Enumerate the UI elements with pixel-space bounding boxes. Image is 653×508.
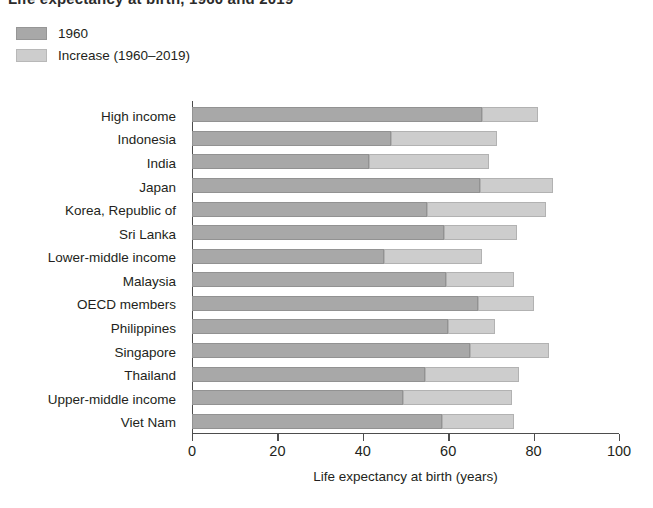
bar-segment-increase bbox=[384, 249, 482, 264]
bar-row bbox=[192, 107, 619, 122]
bar-row bbox=[192, 154, 619, 169]
x-tick-label-20: 20 bbox=[269, 443, 285, 459]
x-tick-label-100: 100 bbox=[607, 443, 631, 459]
x-tick-0 bbox=[192, 434, 193, 441]
bar-row bbox=[192, 414, 619, 429]
bar-row bbox=[192, 202, 619, 217]
bar-row bbox=[192, 296, 619, 311]
bar-segment-increase bbox=[448, 319, 495, 334]
bar-segment-base-1960 bbox=[192, 131, 391, 146]
bar-segment-base-1960 bbox=[192, 225, 444, 240]
x-tick-label-0: 0 bbox=[188, 443, 196, 459]
x-axis-title: Life expectancy at birth (years) bbox=[192, 469, 619, 484]
bar-segment-base-1960 bbox=[192, 272, 446, 287]
bar-segment-increase bbox=[478, 296, 534, 311]
bar-segment-base-1960 bbox=[192, 319, 448, 334]
bar-row bbox=[192, 225, 619, 240]
x-axis-line bbox=[192, 433, 619, 434]
y-axis-label-viet-nam: Viet Nam bbox=[121, 416, 176, 430]
bar-series-group bbox=[192, 103, 619, 433]
x-tick-label-40: 40 bbox=[355, 443, 371, 459]
bar-segment-base-1960 bbox=[192, 202, 427, 217]
bar-row bbox=[192, 390, 619, 405]
bar-row bbox=[192, 249, 619, 264]
y-axis-label-malaysia: Malaysia bbox=[123, 275, 176, 289]
bar-row bbox=[192, 272, 619, 287]
bar-segment-base-1960 bbox=[192, 249, 384, 264]
x-tick-label-80: 80 bbox=[526, 443, 542, 459]
x-tick-20 bbox=[277, 434, 278, 441]
y-axis-label-sri-lanka: Sri Lanka bbox=[119, 228, 176, 242]
bar-row bbox=[192, 367, 619, 382]
bar-segment-increase bbox=[480, 178, 553, 193]
x-tick-40 bbox=[363, 434, 364, 441]
bar-segment-base-1960 bbox=[192, 343, 470, 358]
bar-segment-base-1960 bbox=[192, 296, 478, 311]
y-axis-label-lower-middle-income: Lower-middle income bbox=[48, 251, 176, 265]
bar-segment-increase bbox=[425, 367, 519, 382]
bar-segment-increase bbox=[427, 202, 547, 217]
bar-segment-increase bbox=[470, 343, 549, 358]
bar-segment-increase bbox=[482, 107, 538, 122]
y-axis-label-upper-middle-income: Upper-middle income bbox=[48, 393, 176, 407]
y-axis-label-high-income: High income bbox=[101, 110, 176, 124]
bar-row bbox=[192, 343, 619, 358]
y-axis-label-philippines: Philippines bbox=[111, 322, 176, 336]
bar-segment-base-1960 bbox=[192, 414, 442, 429]
bar-segment-increase bbox=[391, 131, 498, 146]
y-axis-label-oecd-members: OECD members bbox=[77, 298, 176, 312]
y-axis-label-thailand: Thailand bbox=[124, 369, 176, 383]
bar-segment-base-1960 bbox=[192, 367, 425, 382]
x-tick-60 bbox=[448, 434, 449, 441]
bar-segment-increase bbox=[444, 225, 517, 240]
y-axis-label-singapore: Singapore bbox=[114, 346, 176, 360]
x-tick-100 bbox=[619, 434, 620, 441]
y-axis-category-labels: High incomeIndonesiaIndiaJapanKorea, Rep… bbox=[0, 103, 184, 433]
bar-row bbox=[192, 131, 619, 146]
x-tick-80 bbox=[534, 434, 535, 441]
chart-plot-area: High incomeIndonesiaIndiaJapanKorea, Rep… bbox=[0, 0, 653, 508]
y-axis-label-indonesia: Indonesia bbox=[117, 133, 176, 147]
y-axis-label-korea-republic-of: Korea, Republic of bbox=[65, 204, 176, 218]
bar-segment-increase bbox=[403, 390, 512, 405]
bar-segment-base-1960 bbox=[192, 154, 369, 169]
bar-segment-increase bbox=[446, 272, 514, 287]
bar-segment-base-1960 bbox=[192, 178, 480, 193]
y-axis-label-japan: Japan bbox=[139, 181, 176, 195]
bar-row bbox=[192, 178, 619, 193]
bar-row bbox=[192, 319, 619, 334]
bar-segment-base-1960 bbox=[192, 107, 482, 122]
bar-segment-base-1960 bbox=[192, 390, 403, 405]
bar-segment-increase bbox=[369, 154, 489, 169]
y-axis-label-india: India bbox=[147, 157, 176, 171]
x-tick-label-60: 60 bbox=[440, 443, 456, 459]
bar-segment-increase bbox=[442, 414, 515, 429]
